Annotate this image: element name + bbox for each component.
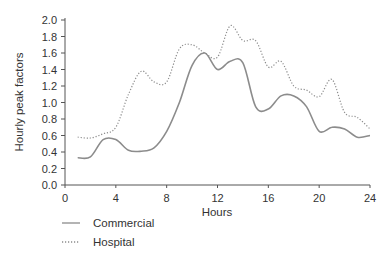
y-axis: 0.00.20.40.60.81.01.21.41.61.82.0	[42, 14, 65, 191]
x-tick-label: 20	[313, 192, 325, 204]
y-tick-label: 0.4	[42, 146, 57, 158]
x-tick-label: 12	[211, 192, 223, 204]
y-tick-label: 1.6	[42, 47, 57, 59]
y-tick-label: 0.0	[42, 179, 57, 191]
legend-label-hospital: Hospital	[93, 236, 135, 248]
series-line-commercial	[78, 53, 370, 159]
y-tick-label: 0.6	[42, 130, 57, 142]
y-axis-title: Hourly peak factors	[13, 52, 25, 151]
y-tick-label: 1.8	[42, 31, 57, 43]
x-tick-label: 4	[113, 192, 119, 204]
x-tick-label: 24	[364, 192, 376, 204]
line-chart: 0.00.20.40.60.81.01.21.41.61.82.0 048121…	[0, 0, 386, 263]
x-tick-label: 16	[262, 192, 274, 204]
series-line-hospital	[78, 25, 370, 138]
y-tick-label: 0.8	[42, 113, 57, 125]
y-tick-label: 1.2	[42, 80, 57, 92]
x-axis: 04812162024	[62, 185, 376, 204]
x-tick-label: 0	[62, 192, 68, 204]
legend-label-commercial: Commercial	[93, 217, 154, 229]
y-tick-label: 1.4	[42, 64, 57, 76]
y-tick-label: 0.2	[42, 163, 57, 175]
legend: Commercial Hospital	[62, 217, 154, 248]
y-tick-label: 1.0	[42, 97, 57, 109]
x-tick-label: 8	[164, 192, 170, 204]
x-axis-title: Hours	[202, 206, 233, 218]
y-tick-label: 2.0	[42, 14, 57, 26]
plot-area	[78, 25, 370, 158]
